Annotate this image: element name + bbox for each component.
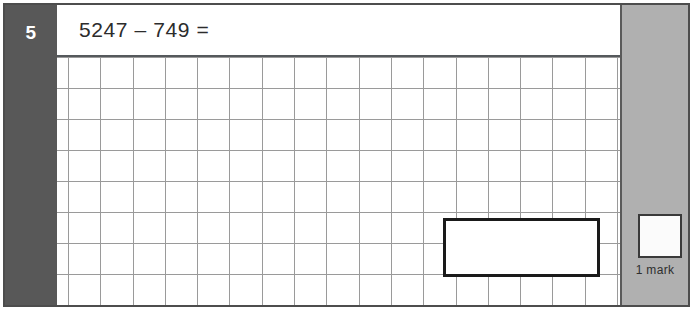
answer-box[interactable] (443, 218, 600, 277)
question-text: 5247 – 749 = (79, 18, 209, 42)
mark-score-box[interactable] (638, 214, 682, 258)
working-grid[interactable] (57, 57, 620, 305)
mark-margin: 1 mark (620, 5, 688, 305)
question-block: 5 5247 – 749 = 1 mark (3, 3, 690, 307)
mark-label: 1 mark (622, 263, 688, 277)
question-header: 5247 – 749 = (57, 5, 620, 57)
question-number-column: 5 (5, 5, 57, 305)
worksheet-page: 5 5247 – 749 = 1 mark (0, 0, 693, 318)
question-number: 5 (5, 22, 57, 44)
